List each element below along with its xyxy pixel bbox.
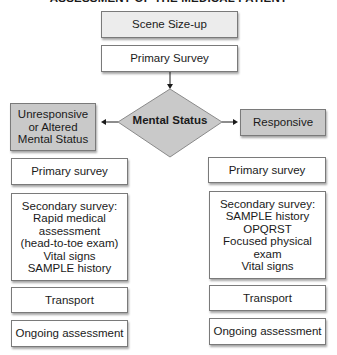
responsive-box: Responsive bbox=[240, 109, 326, 136]
left-transport-box: Transport bbox=[11, 287, 128, 313]
mental-status-label: Mental Status bbox=[118, 114, 222, 126]
right-primary-survey-box: Primary survey bbox=[208, 157, 326, 183]
right-ongoing-assessment-box: Ongoing assessment bbox=[209, 318, 326, 345]
left-ongoing-assessment-box: Ongoing assessment bbox=[11, 320, 128, 347]
left-secondary-survey-box: Secondary survey: Rapid medical assessme… bbox=[11, 193, 128, 281]
right-secondary-survey-box: Secondary survey: SAMPLE history OPQRST … bbox=[209, 191, 326, 279]
unresponsive-box: Unresponsive or Altered Mental Status bbox=[10, 103, 96, 151]
right-transport-box: Transport bbox=[209, 285, 326, 311]
left-primary-survey-box: Primary survey bbox=[11, 158, 128, 185]
